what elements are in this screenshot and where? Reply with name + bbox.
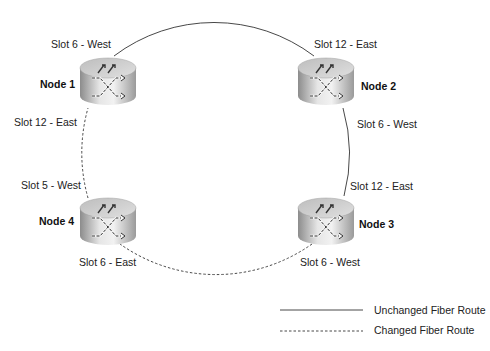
port-label-node3-west: Slot 6 - West [300,256,360,268]
router-icon-node-4 [80,198,136,245]
legend-solid-label: Unchanged Fiber Route [374,304,486,316]
link-node2-node3 [343,108,349,196]
port-label-node4-west: Slot 5 - West [21,179,81,191]
router-icon-node-2 [298,58,354,105]
ring-diagram [0,0,490,351]
link-node3-node4 [120,244,312,275]
node-2-label: Node 2 [361,80,396,92]
port-label-node2-west: Slot 6 - West [357,118,417,130]
port-label-node1-west: Slot 6 - West [51,38,111,50]
port-label-node4-east: Slot 6 - East [79,256,136,268]
router-icon-node-3 [298,198,354,245]
link-node4-node1 [82,108,88,198]
link-node1-node2 [114,22,314,56]
port-label-node2-east: Slot 12 - East [314,38,377,50]
port-label-node1-east: Slot 12 - East [14,116,77,128]
router-icon-node-1 [80,58,136,105]
node-1-label: Node 1 [40,78,75,90]
node-3-label: Node 3 [359,218,394,230]
port-label-node3-east: Slot 12 - East [350,180,413,192]
node-4-label: Node 4 [39,215,74,227]
legend-dashed-label: Changed Fiber Route [374,324,474,336]
